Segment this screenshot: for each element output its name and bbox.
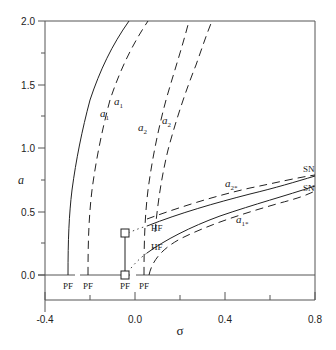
x-tick-label: 0.4 (218, 314, 232, 325)
label-sn: SN (303, 164, 315, 174)
x-axis-title: σ (176, 323, 183, 338)
label-a2-star: a2* (225, 177, 238, 192)
label-sn: SN (303, 183, 315, 193)
x-ticks (45, 292, 315, 300)
curve-a1 (68, 21, 129, 275)
label-a2-unstable: a2 (162, 114, 172, 129)
label-hf: HF (151, 223, 163, 233)
curve-a1-dashed (88, 21, 148, 275)
y-axis-title: a (18, 173, 24, 187)
y-tick-label: 2.0 (21, 16, 35, 27)
curve-a1-solid (147, 186, 315, 253)
dotted-connection-upper (128, 226, 147, 233)
x-tick-label: -0.4 (36, 314, 54, 325)
label-hf: HF (151, 242, 163, 252)
x-tick-label: 0.0 (128, 314, 142, 325)
label-pf: PF (120, 281, 130, 291)
label-a1: a1 (100, 107, 110, 122)
label-a1-star: a1* (236, 213, 249, 228)
label-a1-dashed: a1 (114, 95, 124, 110)
square-marker (121, 271, 129, 279)
x-tick-label: 0.8 (308, 314, 322, 325)
y-tick-label: 0.5 (21, 207, 35, 218)
y-ticks (38, 21, 45, 275)
curve-a1-star (149, 191, 315, 275)
bifurcation-chart: 0.0 0.5 1.0 1.5 2.0 a -0.4 0.0 0.4 0.8 σ… (0, 0, 336, 350)
square-marker (121, 229, 129, 237)
curve-a2-stable (144, 21, 189, 275)
label-a2-stable: a2 (138, 121, 148, 136)
label-pf: PF (83, 281, 93, 291)
y-tick-label: 0.0 (21, 270, 35, 281)
label-pf: PF (139, 281, 149, 291)
label-pf: PF (63, 281, 73, 291)
y-tick-label: 1.5 (21, 80, 35, 91)
y-tick-label: 1.0 (21, 143, 35, 154)
